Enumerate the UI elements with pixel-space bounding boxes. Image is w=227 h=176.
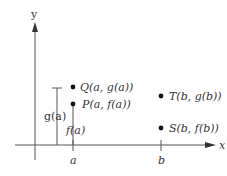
point-s-label: S(b, f(b)) — [169, 122, 219, 135]
y-axis-label: y — [30, 8, 38, 21]
point-t — [159, 94, 164, 99]
tick-label-a: a — [70, 154, 77, 167]
point-p-label: P(a, f(a)) — [81, 98, 131, 111]
g-a-label: g(a) — [44, 110, 66, 123]
f-a-label: f(a) — [65, 124, 85, 137]
y-axis-arrow-icon — [32, 22, 38, 32]
x-axis-label: x — [219, 139, 226, 152]
x-axis-arrow-icon — [205, 142, 216, 148]
point-q — [71, 85, 76, 90]
point-p — [71, 102, 76, 107]
point-t-label: T(b, g(b)) — [169, 90, 222, 103]
tick-label-b: b — [158, 154, 165, 167]
diagram-canvas: y x a b g(a) f(a) Q(a, g(a)) P(a, f(a)) … — [0, 0, 227, 176]
point-q-label: Q(a, g(a)) — [80, 81, 133, 94]
point-s — [159, 126, 164, 131]
